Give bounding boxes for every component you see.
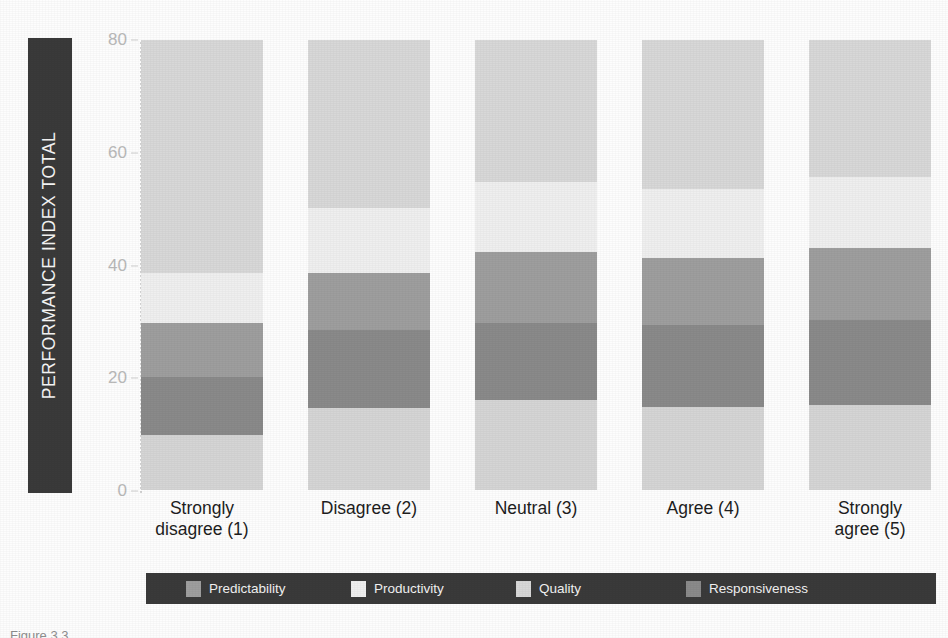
bar-segment [642,189,764,258]
bar-segment [308,208,430,273]
legend-item-responsiveness[interactable]: Responsiveness [686,573,808,604]
y-tick-mark-20 [131,378,138,379]
bar-segment [475,40,597,182]
bar-2 [308,40,430,490]
y-tick-label-80: 80 [93,30,127,50]
y-tick-mark-40 [131,265,138,266]
bar-4 [642,40,764,490]
x-axis-label-4: Agree (4) [628,498,778,519]
bar-segment [475,323,597,400]
y-tick-mark-80 [131,40,138,41]
bar-segment [475,400,597,490]
bar-segment [308,40,430,208]
bar-segment [308,330,430,408]
bar-segment [642,40,764,189]
bar-3 [475,40,597,490]
bar-segment [141,273,263,323]
legend-label: Quality [539,581,581,596]
bar-segment [141,377,263,435]
y-tick-mark-60 [131,152,138,153]
bar-segment [308,273,430,330]
y-axis-title: PERFORMANCE INDEX TOTAL [40,132,61,400]
x-axis-label-5: Stronglyagree (5) [795,498,945,540]
bar-segment [809,248,931,320]
legend-label: Predictability [209,581,286,596]
legend-item-predictability[interactable]: Predictability [186,573,286,604]
plot-area [141,40,931,490]
bar-segment [809,177,931,248]
y-tick-label-40: 40 [93,256,127,276]
legend-item-productivity[interactable]: Productivity [351,573,444,604]
x-axis-label-3: Neutral (3) [461,498,611,519]
legend-label: Productivity [374,581,444,596]
legend-swatch-icon [186,581,201,597]
bar-5 [809,40,931,490]
legend-item-quality[interactable]: Quality [516,573,581,604]
y-axis-title-block: PERFORMANCE INDEX TOTAL [28,38,72,493]
y-axis: 020406080 [95,30,141,510]
legend-swatch-icon [516,581,531,597]
legend-swatch-icon [686,581,701,597]
y-tick-label-0: 0 [93,481,127,501]
bar-segment [475,252,597,323]
x-axis-label-2: Disagree (2) [294,498,444,519]
y-tick-label-20: 20 [93,368,127,388]
bar-segment [308,408,430,490]
bar-1 [141,40,263,490]
bar-segment [475,182,597,252]
legend-label: Responsiveness [709,581,808,596]
figure-page: PERFORMANCE INDEX TOTAL 020406080 Strong… [0,0,948,638]
y-tick-mark-0 [131,491,138,492]
bar-segment [642,407,764,490]
bar-segment [642,325,764,407]
bar-segment [141,435,263,490]
figure-caption: Figure 3.3 [10,628,510,638]
x-axis-labels: Stronglydisagree (1)Disagree (2)Neutral … [141,498,931,558]
x-axis-label-1: Stronglydisagree (1) [127,498,277,540]
bar-segment [141,323,263,377]
bar-segment [809,405,931,490]
legend: PredictabilityProductivityQualityRespons… [146,573,936,604]
legend-swatch-icon [351,581,366,597]
y-tick-label-60: 60 [93,143,127,163]
bar-segment [141,40,263,273]
bar-segment [642,258,764,325]
bar-segment [809,320,931,405]
bar-segment [809,40,931,177]
